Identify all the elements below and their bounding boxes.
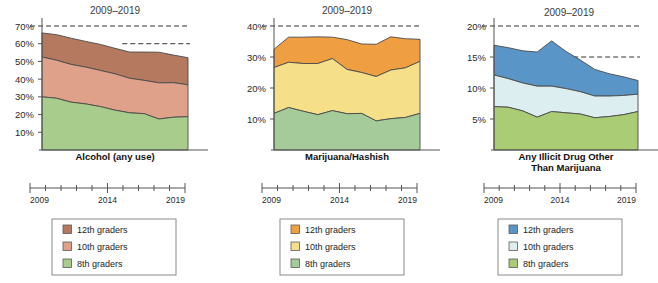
legend-swatch xyxy=(63,225,72,234)
chart-range-title: 2009–2019 xyxy=(90,5,140,16)
legend-label: 12th graders xyxy=(77,225,128,235)
chart-svg: 2009–20195%10%15%20%Any Illicit Drug Oth… xyxy=(456,0,658,283)
legend-label: 10th graders xyxy=(523,242,574,252)
legend-label: 8th graders xyxy=(77,259,123,269)
chart-title: Any Illicit Drug Other xyxy=(518,151,613,162)
legend-swatch xyxy=(509,259,518,268)
legend-label: 10th graders xyxy=(305,242,356,252)
legend-swatch xyxy=(291,259,300,268)
y-tick-label: 50% xyxy=(15,56,35,67)
y-tick-label: 40% xyxy=(247,21,267,32)
chart-title: Marijuana/Hashish xyxy=(305,151,389,162)
legend-label: 8th graders xyxy=(523,259,569,269)
chart-svg: 2009–201910%20%30%40%Marijuana/Hashish20… xyxy=(232,0,458,283)
y-tick-label: 40% xyxy=(15,74,35,85)
y-tick-label: 5% xyxy=(472,114,486,125)
legend-swatch xyxy=(63,259,72,268)
chart-range-title: 2009–2019 xyxy=(544,7,594,18)
x-tick-label: 2009 xyxy=(30,195,49,205)
y-tick-label: 30% xyxy=(247,52,267,63)
legend-swatch xyxy=(291,225,300,234)
y-tick-label: 70% xyxy=(15,21,35,32)
y-tick-label: 20% xyxy=(247,83,267,94)
chart-title: Alcohol (any use) xyxy=(75,151,154,162)
figure-root: 2009–201910%20%30%40%50%60%70%Alcohol (a… xyxy=(0,0,658,283)
y-tick-label: 60% xyxy=(15,38,35,49)
chart-panel-alcohol: 2009–201910%20%30%40%50%60%70%Alcohol (a… xyxy=(0,0,236,283)
x-tick-label: 2019 xyxy=(166,195,185,205)
y-tick-label: 10% xyxy=(247,114,267,125)
chart-panel-marijuana: 2009–201910%20%30%40%Marijuana/Hashish20… xyxy=(232,0,458,283)
x-tick-label: 2014 xyxy=(98,195,117,205)
y-tick-label: 10% xyxy=(467,83,487,94)
y-tick-label: 15% xyxy=(467,52,487,63)
legend-label: 8th graders xyxy=(305,259,351,269)
chart-svg: 2009–201910%20%30%40%50%60%70%Alcohol (a… xyxy=(0,0,236,283)
legend-label: 12th graders xyxy=(523,225,574,235)
legend-label: 12th graders xyxy=(305,225,356,235)
x-tick-label: 2009 xyxy=(484,195,503,205)
legend-swatch xyxy=(509,225,518,234)
chart-title-line2: Than Marijuana xyxy=(531,162,601,173)
y-tick-label: 20% xyxy=(15,109,35,120)
x-tick-label: 2009 xyxy=(262,195,281,205)
chart-range-title: 2009–2019 xyxy=(322,5,372,16)
y-tick-label: 30% xyxy=(15,91,35,102)
legend-swatch xyxy=(63,242,72,251)
y-tick-label: 10% xyxy=(15,127,35,138)
legend-swatch xyxy=(291,242,300,251)
y-tick-label: 20% xyxy=(467,21,487,32)
chart-panel-illicit: 2009–20195%10%15%20%Any Illicit Drug Oth… xyxy=(456,0,658,283)
x-tick-label: 2014 xyxy=(330,195,349,205)
legend-label: 10th graders xyxy=(77,242,128,252)
legend-swatch xyxy=(509,242,518,251)
x-tick-label: 2019 xyxy=(617,195,636,205)
x-tick-label: 2019 xyxy=(398,195,417,205)
x-tick-label: 2014 xyxy=(551,195,570,205)
